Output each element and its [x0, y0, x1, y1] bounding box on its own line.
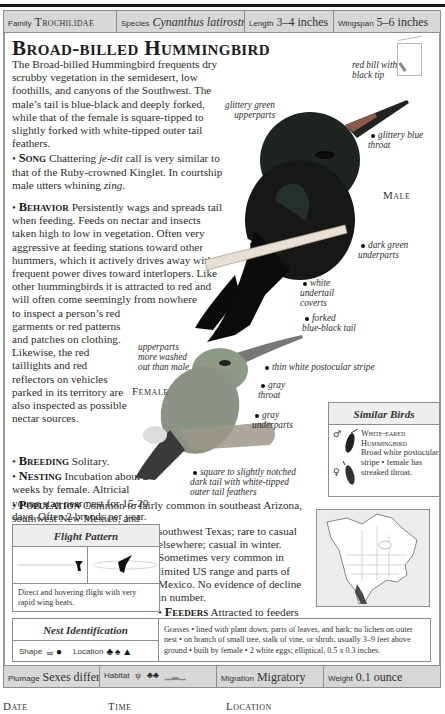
range-map	[316, 509, 430, 607]
migration-cell: Migration Migratory	[217, 666, 324, 687]
male-symbol-icon: ♂	[333, 429, 341, 439]
habitat-cell: Habitat ψ ♣♣ ▁▂▁	[100, 666, 217, 687]
callout-undertail: white undertail coverts	[300, 278, 362, 308]
location-field-label[interactable]: Location	[226, 700, 272, 712]
weight-cell: Weight 0.1 ounce	[324, 666, 440, 687]
population-heading: Population	[19, 498, 80, 512]
callout-upperparts: glittery green upperparts	[220, 100, 275, 120]
breeding-heading: Breeding	[19, 454, 69, 468]
callout-gray-underparts: gray underparts	[252, 410, 307, 430]
female-symbol-icon: ♀	[333, 467, 340, 477]
song-heading: Song	[19, 151, 46, 165]
weight-label: Weight	[328, 674, 353, 683]
length-label: Length	[249, 19, 273, 28]
family-cell: Family Trochilidae	[4, 11, 117, 32]
callout-bill: red bill with black tip	[352, 60, 412, 80]
similar-bird-description: Broad white postocular stripe • female h…	[361, 448, 439, 477]
callout-throat: glittery blue throat	[368, 130, 428, 150]
shrub-icon: ♣	[106, 646, 113, 657]
shape-label: Shape	[19, 647, 42, 656]
plumage-label: Plumage	[8, 674, 40, 683]
cup-nest-icon: ☕	[45, 646, 54, 657]
wingspan-value: 5–6 inches	[377, 15, 429, 30]
hovering-flight-illustration	[88, 547, 162, 583]
direct-flight-illustration	[13, 547, 88, 583]
similar-bird-thumbnail	[343, 429, 359, 493]
species-cell: Species Cynanthus latirostris	[117, 11, 245, 32]
species-value: Cynanthus latirostris	[152, 15, 245, 30]
location-label: Location	[73, 647, 103, 656]
wingspan-label: Wingspan	[338, 19, 374, 28]
date-field-label[interactable]: Date	[3, 700, 28, 712]
scrub-icon: ▁▂▁	[165, 670, 186, 680]
flight-pattern-box: Flight Pattern Direct and hovering fligh…	[12, 524, 160, 612]
migration-label: Migration	[221, 674, 254, 683]
nest-identification-box: Nest Identification Shape ☕ ● Location ♣…	[12, 618, 431, 662]
habitat-label: Habitat	[104, 671, 129, 680]
callout-tail: forked blue-black tail	[302, 313, 357, 333]
nest-identification-header: Nest Identification	[13, 619, 158, 641]
male-bird-illustration	[195, 80, 415, 350]
callout-female-upperparts: upperparts more washed out than male	[138, 342, 198, 372]
footer-info-bar: Plumage Sexes differ Habitat ψ ♣♣ ▁▂▁ Mi…	[3, 665, 441, 688]
wingspan-cell: Wingspan 5–6 inches	[334, 11, 440, 32]
behavior-heading: Behavior	[19, 200, 69, 214]
header-info-bar: Family Trochilidae Species Cynanthus lat…	[3, 10, 441, 33]
migration-value: Migratory	[257, 670, 306, 685]
length-value: 3–4 inches	[276, 15, 328, 30]
flight-pattern-caption: Direct and hovering flight with very rap…	[13, 584, 159, 612]
callout-female-tail: square to slightly notched dark tail wit…	[190, 467, 300, 497]
similar-birds-box: Similar Birds ♂ ♀ White-eared Hummingbir…	[328, 402, 440, 497]
time-field-label[interactable]: Time	[108, 700, 131, 712]
nesting-heading: Nesting	[19, 469, 62, 483]
similar-bird-name: White-eared Hummingbird	[361, 429, 439, 448]
nest-description: Grasses • lined with plant down, parts o…	[159, 619, 430, 661]
species-label: Species	[121, 19, 149, 28]
male-label: Male	[383, 189, 410, 201]
desert-plant-icon: ψ	[135, 670, 141, 680]
length-cell: Length 3–4 inches	[245, 11, 334, 32]
forest-icon: ♣♣	[147, 670, 159, 680]
plumage-value: Sexes differ	[43, 670, 100, 685]
callout-underparts: dark green underparts	[358, 240, 413, 260]
callout-postocular: thin white postocular stripe	[262, 362, 432, 372]
ground-icon: ▲	[122, 646, 132, 657]
weight-value: 0.1 ounce	[356, 670, 403, 685]
flight-pattern-header: Flight Pattern	[13, 525, 159, 547]
north-america-map-icon	[317, 510, 429, 606]
tree-icon: ♠	[115, 646, 120, 657]
callout-gray-throat: gray throat	[258, 380, 298, 400]
pendant-nest-icon: ●	[56, 646, 62, 657]
top-rule	[0, 4, 445, 7]
female-label: Female	[132, 385, 169, 397]
plumage-cell: Plumage Sexes differ	[4, 666, 100, 687]
family-value: Trochilidae	[35, 15, 95, 30]
similar-birds-header: Similar Birds	[329, 403, 439, 425]
family-label: Family	[8, 19, 32, 28]
